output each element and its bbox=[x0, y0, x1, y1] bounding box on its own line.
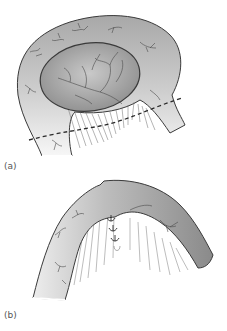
medical-illustration: (a) (b) bbox=[0, 0, 227, 331]
arched-bowel-segment bbox=[33, 180, 213, 300]
panel-label-b: (b) bbox=[4, 310, 17, 320]
panel-label-a: (a) bbox=[4, 161, 17, 171]
suture-3 bbox=[111, 235, 119, 241]
illustration-svg bbox=[0, 0, 227, 331]
panel-b-drawing bbox=[33, 180, 213, 300]
suture-2 bbox=[109, 225, 117, 231]
suture-end bbox=[114, 246, 120, 251]
panel-a-drawing bbox=[17, 16, 185, 156]
